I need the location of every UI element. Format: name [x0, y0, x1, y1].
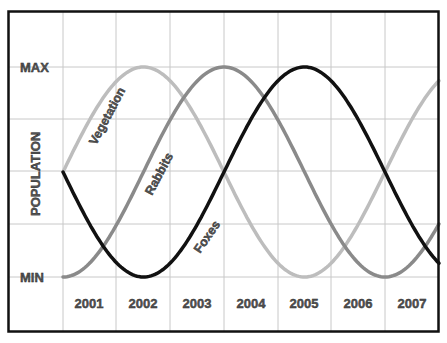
x-tick-2004: 2004 — [237, 296, 267, 311]
x-tick-2005: 2005 — [290, 296, 319, 311]
y-tick-min: MIN — [20, 270, 44, 285]
x-tick-2002: 2002 — [129, 296, 158, 311]
predator-prey-chart: MAX MIN POPULATION 2001 2002 2003 2004 2… — [0, 0, 447, 343]
x-tick-2003: 2003 — [183, 296, 212, 311]
x-tick-2001: 2001 — [75, 296, 104, 311]
y-tick-max: MAX — [20, 60, 49, 75]
rabbits-label: Rabbits — [142, 150, 176, 197]
x-tick-2006: 2006 — [344, 296, 373, 311]
x-tick-labels: 2001 2002 2003 2004 2005 2006 2007 — [75, 296, 427, 311]
y-axis-label: POPULATION — [28, 132, 43, 216]
x-tick-2007: 2007 — [398, 296, 427, 311]
